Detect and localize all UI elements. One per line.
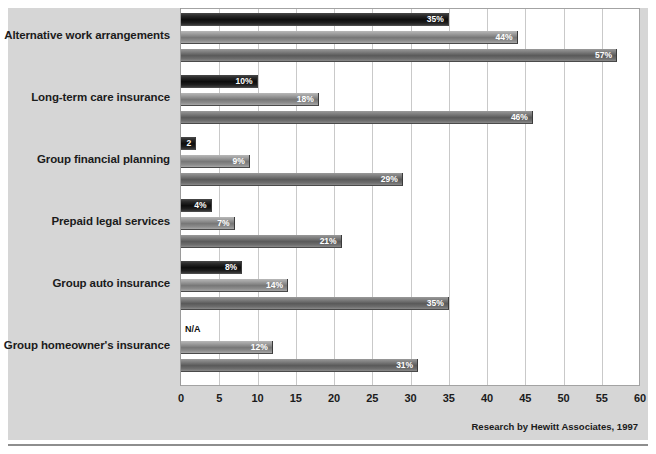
bar-value-label: 9% [233,157,245,166]
bar-2000-1: 57% [181,49,617,62]
x-tick-label: 25 [366,392,378,404]
gridline [564,9,565,385]
gridline [487,9,488,385]
bar-1994-2: 10% [181,75,258,88]
gridline [334,9,335,385]
bar-2000-2: 46% [181,111,533,124]
category-label: Alternative work arrangements [4,29,170,41]
bar-value-label: 44% [496,33,513,42]
x-tick-label: 45 [519,392,531,404]
bar-value-label: 2 [187,139,192,148]
bar-1997-6: 12% [181,341,273,354]
bar-1997-3: 9% [181,155,250,168]
category-label: Prepaid legal services [51,215,170,227]
bar-value-label: 31% [396,361,413,370]
gridline [449,9,450,385]
bar-value-label: 46% [511,113,528,122]
bar-value-label: 35% [427,299,444,308]
bar-value-label: 4% [194,201,206,210]
x-tick-label: 30 [404,392,416,404]
x-tick-label: 5 [216,392,222,404]
bar-1997-2: 18% [181,93,319,106]
bar-value-label: 57% [595,51,612,60]
bar-value-label: 21% [320,237,337,246]
bar-1997-1: 44% [181,31,518,44]
bar-1994-1: 35% [181,13,449,26]
gridline [258,9,259,385]
bar-value-label: 18% [297,95,314,104]
x-tick-label: 15 [290,392,302,404]
bar-value-label: 14% [266,281,283,290]
gridline [372,9,373,385]
bar-value-label: 10% [235,77,252,86]
x-tick-label: 55 [596,392,608,404]
category-label: Long-term care insurance [31,91,170,103]
x-tick-label: 35 [443,392,455,404]
bar-2000-5: 35% [181,297,449,310]
bar-1997-5: 14% [181,279,288,292]
gridline [602,9,603,385]
bar-value-label: 8% [225,263,237,272]
bar-2000-4: 21% [181,235,342,248]
category-label: Group financial planning [37,153,170,165]
bar-1994-3: 2 [181,137,196,150]
category-label-column: Alternative work arrangementsLong-term c… [8,8,181,386]
gridline [296,9,297,385]
bar-value-label: 7% [217,219,229,228]
gridline [525,9,526,385]
x-tick-label: 20 [328,392,340,404]
x-tick-label: 40 [481,392,493,404]
x-tick-label: 50 [557,392,569,404]
bar-1997-4: 7% [181,217,235,230]
x-tick-label: 0 [178,392,184,404]
plot-area: 35%44%57%10%18%46%29%29%4%7%21%8%14%35%N… [181,8,640,386]
chart-container: Alternative work arrangementsLong-term c… [0,0,656,454]
bar-1994-4: 4% [181,199,212,212]
panel-bottom-rule [8,444,648,446]
bar-value-na: N/A [185,325,201,334]
x-tick-label: 60 [634,392,646,404]
gridline [411,9,412,385]
category-label: Group homeowner's insurance [4,339,170,351]
bar-value-label: 29% [381,175,398,184]
bar-2000-6: 31% [181,359,418,372]
bar-2000-3: 29% [181,173,403,186]
x-tick-label: 10 [251,392,263,404]
attribution-text: Research by Hewitt Associates, 1997 [471,421,638,432]
gridline [219,9,220,385]
category-label: Group auto insurance [53,277,171,289]
bar-value-label: 35% [427,15,444,24]
bar-value-label: 12% [251,343,268,352]
bar-1994-5: 8% [181,261,242,274]
